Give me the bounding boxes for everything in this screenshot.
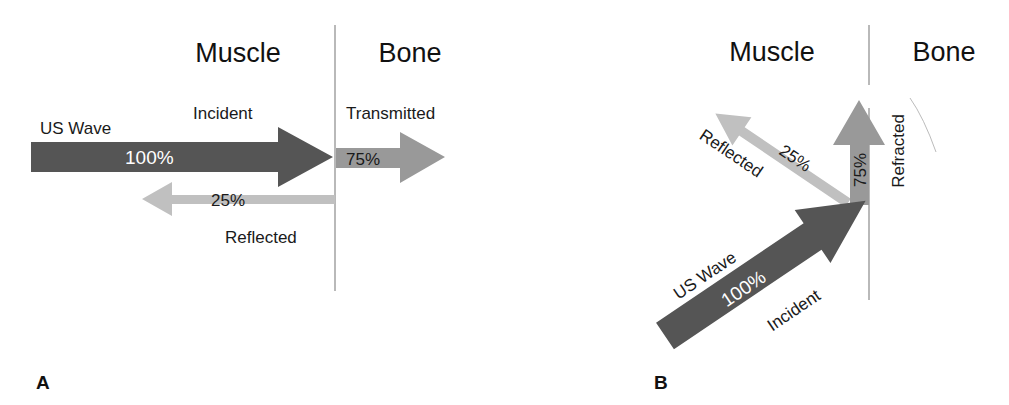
muscle-label-a: Muscle	[195, 38, 281, 68]
reflected-label-a: Reflected	[225, 228, 297, 247]
transmitted-label-a: Transmitted	[346, 104, 435, 123]
panel-label-a: A	[36, 372, 50, 393]
panel-b: Muscle Bone 25% Reflected 75% Refracted …	[647, 25, 975, 393]
refracted-label-b: Refracted	[889, 114, 908, 188]
incident-percent-a: 100%	[125, 147, 174, 168]
reflected-percent-a: 25%	[211, 191, 245, 210]
stray-mark	[910, 98, 936, 152]
muscle-label-b: Muscle	[729, 37, 815, 67]
ultrasound-reflection-diagram: Muscle Bone US Wave Incident 100% Transm…	[0, 0, 1009, 405]
incident-label-a: Incident	[193, 104, 253, 123]
us-wave-label-a: US Wave	[40, 119, 111, 138]
bone-label-b: Bone	[912, 37, 975, 67]
panel-a: Muscle Bone US Wave Incident 100% Transm…	[31, 25, 445, 393]
bone-label-a: Bone	[378, 38, 441, 68]
transmitted-percent-a: 75%	[346, 150, 380, 169]
refracted-percent-b: 75%	[851, 153, 870, 187]
panel-label-b: B	[654, 372, 668, 393]
incident-label-b: Incident	[764, 286, 824, 335]
refracted-arrow-b	[833, 100, 885, 205]
